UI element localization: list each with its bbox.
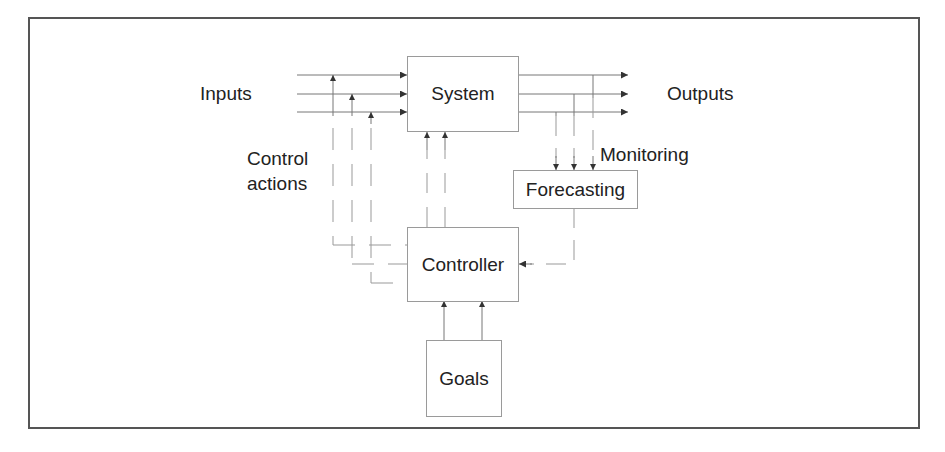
system-node: System bbox=[407, 56, 519, 132]
control-actions-label-line2: actions bbox=[247, 173, 307, 195]
controller-node-label: Controller bbox=[422, 254, 504, 276]
control-action-dashed-lines bbox=[333, 128, 407, 283]
goals-node-label: Goals bbox=[439, 368, 489, 390]
goals-to-controller-arrows bbox=[444, 301, 482, 340]
inputs-label: Inputs bbox=[200, 83, 252, 105]
monitoring-arrows bbox=[556, 75, 593, 170]
forecasting-to-controller-arrow bbox=[519, 208, 574, 264]
outputs-label: Outputs bbox=[667, 83, 734, 105]
monitoring-label: Monitoring bbox=[600, 144, 689, 166]
system-node-label: System bbox=[431, 83, 494, 105]
controller-to-system-arrows bbox=[427, 132, 445, 227]
controller-node: Controller bbox=[407, 227, 519, 302]
forecasting-node: Forecasting bbox=[513, 170, 638, 209]
forecasting-node-label: Forecasting bbox=[526, 179, 625, 201]
output-arrows bbox=[518, 75, 628, 112]
control-actions-label-line1: Control bbox=[247, 148, 308, 170]
control-action-arrows bbox=[333, 75, 371, 124]
goals-node: Goals bbox=[426, 340, 502, 417]
